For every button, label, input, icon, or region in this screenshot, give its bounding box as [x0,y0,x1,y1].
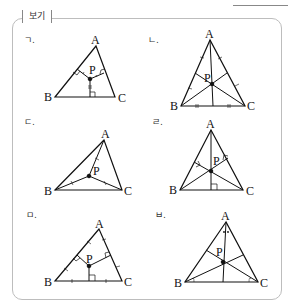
item-2-marker: ㄴ. [148,35,159,45]
item-5-marker: ㅁ. [26,210,37,220]
vertex-c: C [247,99,255,113]
item-5: ㅁ. A B C P [26,210,132,289]
vertex-c: C [246,184,254,198]
vertex-c: C [118,91,126,105]
vertex-a: A [205,27,214,41]
item-6-marker: ㅂ. [155,210,166,220]
vertex-b: B [174,276,182,290]
vertex-b: B [44,184,52,198]
item-1-marker: ㄱ. [24,35,35,45]
item-2: ㄴ. A B C P [148,27,255,113]
item-6: ㅂ. A B C P [155,209,268,290]
item-1: ㄱ. A B C P [24,33,126,105]
vertex-a: A [206,117,215,131]
vertex-a: A [221,209,230,223]
vertex-c: C [260,276,268,290]
vertex-b: B [170,99,178,113]
point-p: P [89,63,96,77]
point-p: P [213,154,220,168]
vertex-c: C [124,275,132,289]
item-3: ㄷ. A B C P [24,117,132,198]
point-p: P [204,71,211,85]
vertex-c: C [124,184,132,198]
vertex-b: B [44,275,52,289]
point-p: P [86,252,93,266]
item-4: ㄹ. A B C P [152,117,254,198]
vertex-a: A [101,127,110,141]
vertex-b: B [44,90,52,104]
point-p: P [93,164,100,178]
vertex-a: A [91,33,100,47]
point-p: P [216,245,223,259]
vertex-b: B [169,183,177,197]
vertex-a: A [95,217,104,231]
item-3-marker: ㄷ. [24,117,35,127]
item-4-marker: ㄹ. [152,117,163,127]
triangle-diagrams: ㄱ. A B C P ㄴ. A B C P [0,0,288,305]
